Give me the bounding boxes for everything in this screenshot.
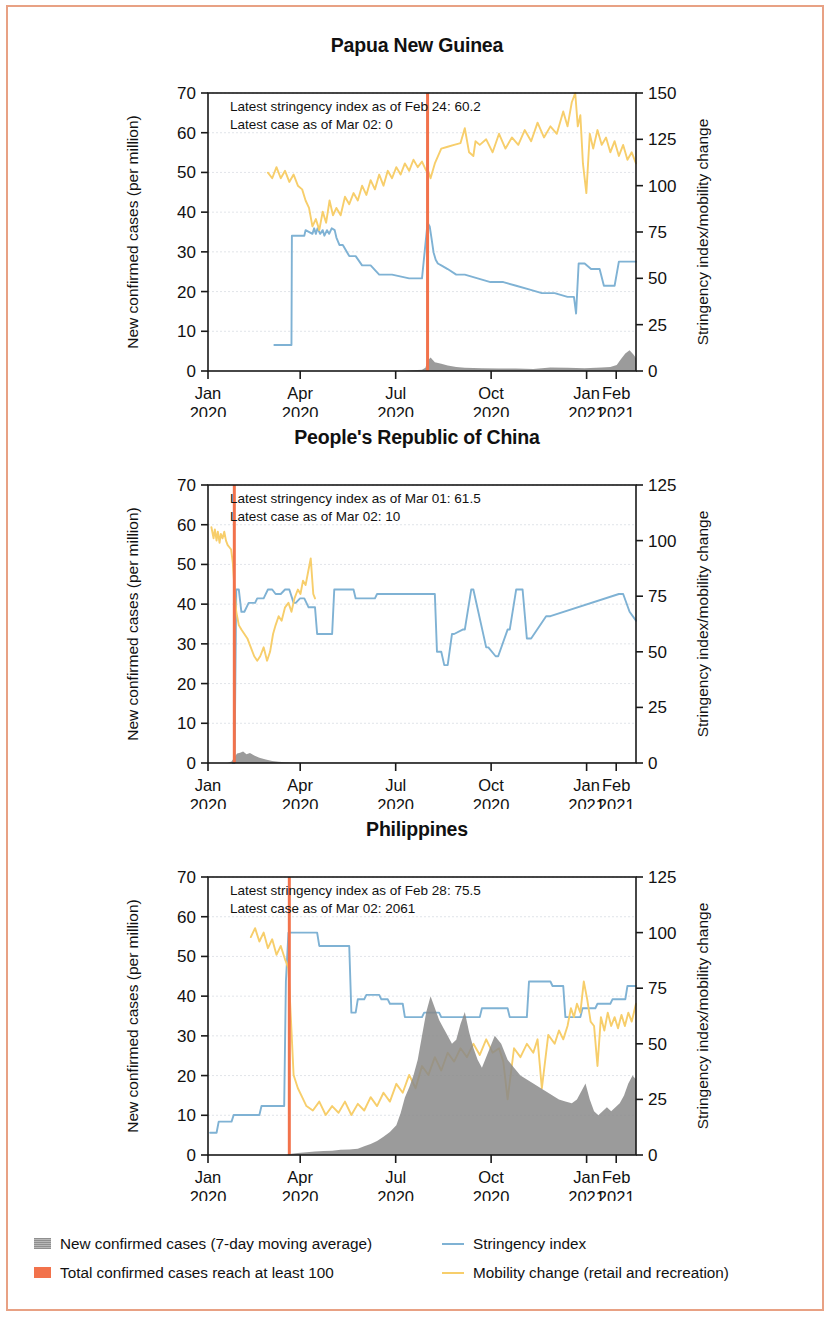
y2-axis-tick-label-0: 0 xyxy=(648,754,657,773)
y-axis-tick-label-3: 30 xyxy=(177,635,196,654)
y-axis-tick-label-2: 20 xyxy=(177,283,196,302)
x-axis-tick-label-month-5: Feb xyxy=(602,776,630,794)
figure-frame: Papua New Guinea 01020304050607002550751… xyxy=(6,5,824,1311)
y-axis-title: New confirmed cases (per million) xyxy=(124,115,141,348)
y-axis-tick-label-6: 60 xyxy=(177,516,196,535)
chart-panel-2: Philippines 0102030405060700255075100125… xyxy=(8,817,826,1207)
y2-axis-tick-label-1: 25 xyxy=(648,1090,667,1109)
y-axis-title: New confirmed cases (per million) xyxy=(124,507,141,740)
figure-legend: New confirmed cases (7-day moving averag… xyxy=(8,1229,826,1287)
chart-svg-container-1: 0102030405060700255075100125Jan2020Apr20… xyxy=(8,449,826,809)
legend-item-mobility: Mobility change (retail and recreation) xyxy=(438,1264,729,1282)
y2-axis-tick-label-0: 0 xyxy=(648,362,657,381)
x-axis-tick-label-month-4: Jan xyxy=(573,776,600,794)
chart-title-2: Philippines xyxy=(8,817,826,841)
y2-axis-tick-label-2: 50 xyxy=(648,643,667,662)
x-axis-tick-label-month-2: Jul xyxy=(385,384,406,402)
x-axis-tick-label-month-5: Feb xyxy=(602,384,630,402)
chart-plot-2: 0102030405060700255075100125Jan2020Apr20… xyxy=(8,841,826,1201)
x-axis-tick-label-year-1: 2020 xyxy=(282,404,319,417)
annotation-0: Latest stringency index as of Feb 24: 60… xyxy=(230,99,481,114)
y2-axis-tick-label-5: 125 xyxy=(648,476,676,495)
legend-item-new-cases: New confirmed cases (7-day moving averag… xyxy=(8,1235,438,1253)
x-axis-tick-label-month-0: Jan xyxy=(195,776,222,794)
series-area-new-confirmed-cases-day-moving-average xyxy=(208,751,636,763)
chart-plot-0: 0102030405060700255075100125150Jan2020Ap… xyxy=(8,57,826,417)
annotation-1: Latest case as of Mar 02: 2061 xyxy=(230,901,415,916)
chart-svg-container-2: 0102030405060700255075100125Jan2020Apr20… xyxy=(8,841,826,1201)
y2-axis-tick-label-5: 125 xyxy=(648,868,676,887)
y2-axis-tick-label-2: 50 xyxy=(648,269,667,288)
series-area-new-confirmed-cases-day-moving-average xyxy=(208,350,636,371)
x-axis-tick-label-month-4: Jan xyxy=(573,384,600,402)
y-axis-tick-label-4: 40 xyxy=(177,987,196,1006)
x-axis-tick-label-month-0: Jan xyxy=(195,1168,222,1186)
y-axis-tick-label-5: 50 xyxy=(177,163,196,182)
legend-swatch-stringency-icon xyxy=(442,1243,464,1245)
x-axis-tick-label-year-3: 2020 xyxy=(473,1188,510,1201)
y2-axis-tick-label-2: 50 xyxy=(648,1035,667,1054)
y2-axis-tick-label-4: 100 xyxy=(648,177,676,196)
x-axis-tick-label-year-5: 2021 xyxy=(598,404,635,417)
x-axis-tick-label-month-4: Jan xyxy=(573,1168,600,1186)
legend-item-stringency: Stringency index xyxy=(438,1235,586,1253)
y-axis-tick-label-1: 10 xyxy=(177,322,196,341)
y-axis-tick-label-6: 60 xyxy=(177,124,196,143)
x-axis-tick-label-year-0: 2020 xyxy=(190,1188,227,1201)
legend-label-threshold: Total confirmed cases reach at least 100 xyxy=(60,1264,334,1282)
legend-item-threshold: Total confirmed cases reach at least 100 xyxy=(8,1264,438,1282)
y-axis-tick-label-0: 0 xyxy=(187,1146,196,1165)
x-axis-tick-label-month-3: Oct xyxy=(478,384,504,402)
annotation-1: Latest case as of Mar 02: 10 xyxy=(230,509,400,524)
y-axis-tick-label-1: 10 xyxy=(177,1106,196,1125)
y-axis-tick-label-1: 10 xyxy=(177,714,196,733)
x-axis-tick-label-month-1: Apr xyxy=(287,1168,313,1186)
y-axis-tick-label-0: 0 xyxy=(187,362,196,381)
y-axis-tick-label-2: 20 xyxy=(177,675,196,694)
x-axis-tick-label-month-3: Oct xyxy=(478,1168,504,1186)
x-axis-tick-label-month-3: Oct xyxy=(478,776,504,794)
y-axis-tick-label-5: 50 xyxy=(177,555,196,574)
y-axis-tick-label-4: 40 xyxy=(177,203,196,222)
annotation-0: Latest stringency index as of Feb 28: 75… xyxy=(230,883,481,898)
y2-axis-tick-label-0: 0 xyxy=(648,1146,657,1165)
legend-swatch-threshold-icon xyxy=(34,1267,51,1278)
series-line-stringency-index xyxy=(274,223,636,345)
y-axis-tick-label-5: 50 xyxy=(177,947,196,966)
y2-axis-tick-label-3: 75 xyxy=(648,223,667,242)
y-axis-tick-label-2: 20 xyxy=(177,1067,196,1086)
y-axis-title: New confirmed cases (per million) xyxy=(124,899,141,1132)
plot-border xyxy=(208,93,636,371)
x-axis-tick-label-year-2: 2020 xyxy=(377,404,414,417)
y2-axis-title: Stringency index/mobility change xyxy=(694,511,711,738)
x-axis-tick-label-year-1: 2020 xyxy=(282,796,319,809)
y-axis-tick-label-3: 30 xyxy=(177,243,196,262)
x-axis-tick-label-year-2: 2020 xyxy=(377,1188,414,1201)
x-axis-tick-label-month-2: Jul xyxy=(385,1168,406,1186)
x-axis-tick-label-year-2: 2020 xyxy=(377,796,414,809)
y2-axis-title: Stringency index/mobility change xyxy=(694,903,711,1130)
y-axis-tick-label-7: 70 xyxy=(177,868,196,887)
x-axis-tick-label-month-0: Jan xyxy=(195,384,222,402)
legend-swatch-mobility-icon xyxy=(442,1272,464,1274)
y-axis-tick-label-7: 70 xyxy=(177,84,196,103)
chart-svg-container-0: 0102030405060700255075100125150Jan2020Ap… xyxy=(8,57,826,417)
y2-axis-tick-label-6: 150 xyxy=(648,84,676,103)
x-axis-tick-label-year-0: 2020 xyxy=(190,404,227,417)
y-axis-tick-label-4: 40 xyxy=(177,595,196,614)
y2-axis-tick-label-3: 75 xyxy=(648,979,667,998)
x-axis-tick-label-year-1: 2020 xyxy=(282,1188,319,1201)
x-axis-tick-label-month-1: Apr xyxy=(287,384,313,402)
legend-row-1: New confirmed cases (7-day moving averag… xyxy=(8,1229,826,1258)
y2-axis-title: Stringency index/mobility change xyxy=(694,119,711,346)
legend-label-mobility: Mobility change (retail and recreation) xyxy=(473,1264,729,1282)
y2-axis-tick-label-3: 75 xyxy=(648,587,667,606)
legend-row-2: Total confirmed cases reach at least 100… xyxy=(8,1258,826,1287)
y2-axis-tick-label-5: 125 xyxy=(648,130,676,149)
x-axis-tick-label-year-3: 2020 xyxy=(473,796,510,809)
annotation-1: Latest case as of Mar 02: 0 xyxy=(230,117,393,132)
legend-label-stringency: Stringency index xyxy=(473,1235,586,1253)
x-axis-tick-label-month-2: Jul xyxy=(385,776,406,794)
x-axis-tick-label-year-5: 2021 xyxy=(598,1188,635,1201)
y-axis-tick-label-3: 30 xyxy=(177,1027,196,1046)
